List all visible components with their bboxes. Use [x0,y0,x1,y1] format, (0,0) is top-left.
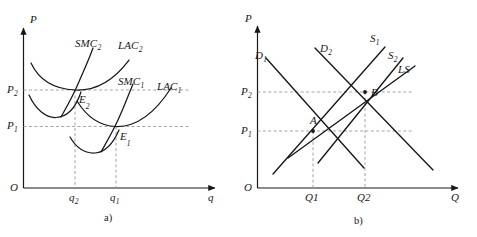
panel-a-caption: a) [104,212,112,223]
curve-ls [288,66,415,158]
panel-a-x-axis-label: q [208,192,214,203]
panel-b-tick-q1: Q1 [305,192,319,203]
economics-figure: P q O P2 P1 q2 q1 SMC2 LAC2 SMC1 LAC1 E2… [0,0,477,237]
point-a-dot [311,129,315,133]
point-label-a: A [310,114,317,126]
panel-b-tick-p1: P1 [241,125,252,136]
panel-a-axes [24,28,216,188]
curve-label-smc1: SMC1 [118,76,144,87]
curve-label-lac1: LAC1 [157,81,181,92]
point-label-b: B [371,86,378,98]
panel-b-x-axis-label: Q [451,192,459,203]
point-label-e2: E2 [79,93,89,108]
point-label-e1: E1 [120,130,130,145]
panel-b-point-markers [311,90,367,133]
curve-s1 [273,47,385,174]
point-b-dot [363,90,367,94]
curve-label-smc2: SMC2 [75,38,101,49]
panel-a-curves [29,48,171,153]
panel-b-y-axis-label: P [245,13,252,24]
curve-s2 [318,58,403,163]
curve-label-lac2: LAC2 [118,40,142,51]
panel-b-origin-label: O [244,182,252,193]
panel-a-tick-p1: P1 [7,120,18,131]
panel-a-guides [24,90,191,188]
curve-label-s2: S2 [388,50,397,61]
curve-label-ls: LS [398,64,410,75]
curve-sac2 [29,92,81,118]
panel-b-tick-q2: Q2 [357,192,371,203]
panel-a-y-axis-label: P [30,14,37,25]
panel-a-tick-q1: q1 [110,192,119,203]
panel-b-tick-p2: P2 [241,86,252,97]
curve-lac2 [31,60,129,90]
panel-a-origin-label: O [10,182,18,193]
curve-label-s1: S1 [370,33,379,44]
panel-b-guides [258,92,413,188]
panel-a-tick-q2: q2 [69,192,78,203]
panel-a-tick-p2: P2 [7,84,18,95]
curve-label-d2: D2 [320,43,332,54]
curve-label-d1: D1 [255,50,267,61]
panel-b-caption: b) [354,215,363,226]
